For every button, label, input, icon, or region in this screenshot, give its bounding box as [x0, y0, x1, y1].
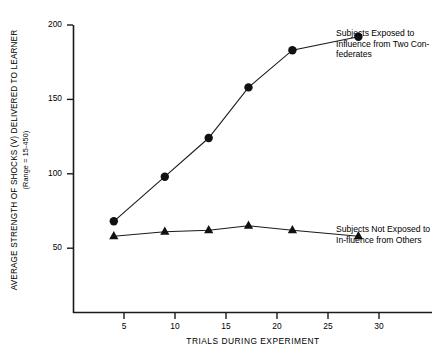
x-axis-title: TRIALS DURING EXPERIMENT	[73, 336, 433, 346]
x-tick-label-30: 30	[367, 321, 391, 331]
data-point	[244, 221, 253, 229]
data-point	[110, 217, 118, 225]
data-point	[204, 225, 213, 233]
chart-figure: 200 150 100 50 5 10 15 20 25 30 AVERAGE …	[0, 0, 438, 357]
series-confederates-line	[114, 37, 359, 222]
series-not-exposed-line	[114, 226, 359, 236]
data-point	[205, 134, 213, 142]
annotation-confederates: Subjects Exposed to Influence from Two C…	[336, 28, 432, 60]
x-tick-label-20: 20	[265, 321, 289, 331]
data-point	[161, 173, 169, 181]
y-axis-title: AVERAGE STRENGTH OF SHOCKS (V) DELIVERED…	[10, 10, 44, 310]
data-point	[288, 225, 297, 233]
y-axis-title-line1: AVERAGE STRENGTH OF SHOCKS (V) DELIVERED…	[10, 10, 21, 310]
x-tick-label-15: 15	[214, 321, 238, 331]
series-not-exposed	[109, 221, 363, 240]
y-axis-title-line2: (Range = 15-450)	[21, 10, 32, 310]
x-axis-ticks	[124, 313, 379, 319]
data-point	[160, 227, 169, 235]
x-tick-label-5: 5	[112, 321, 136, 331]
x-tick-label-10: 10	[163, 321, 187, 331]
data-point	[288, 46, 296, 54]
x-tick-label-25: 25	[316, 321, 340, 331]
data-point	[244, 83, 252, 91]
axes	[73, 25, 432, 313]
annotation-not-exposed: Subjects Not Exposed to In-fluence from …	[336, 224, 432, 245]
series-confederates	[110, 33, 363, 226]
data-point	[109, 231, 118, 239]
y-axis-ticks	[67, 25, 73, 248]
